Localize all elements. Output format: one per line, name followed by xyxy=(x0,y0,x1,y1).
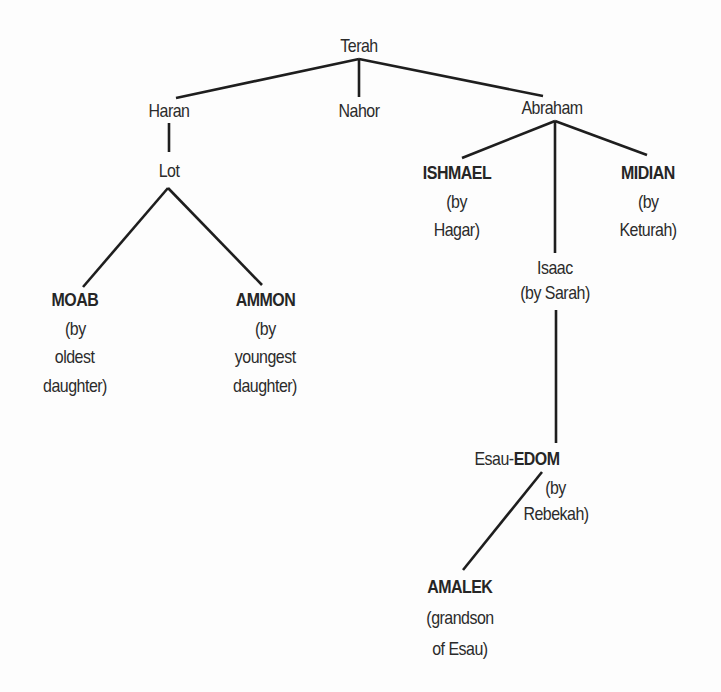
node-note: (by xyxy=(447,188,468,217)
node-moab: MOAB (by oldest daughter) xyxy=(37,286,113,400)
node-amalek: AMALEK (grandson of Esau) xyxy=(420,573,500,664)
node-note: oldest xyxy=(55,343,95,372)
node-ishmael: ISHMAEL (by Hagar) xyxy=(416,159,497,245)
node-name: MIDIAN xyxy=(621,159,675,188)
node-midian: MIDIAN (by Keturah) xyxy=(614,159,682,245)
family-tree-diagram: Terah Haran Nahor Abraham Lot MOAB (by o… xyxy=(0,0,721,692)
node-prefix: Esau- xyxy=(474,448,513,469)
node-abraham: Abraham xyxy=(516,97,589,119)
node-name: AMALEK xyxy=(427,573,492,602)
node-note: (grandson xyxy=(426,602,493,633)
node-name: Isaac xyxy=(537,255,573,280)
node-terah: Terah xyxy=(337,35,382,57)
node-name: EDOM xyxy=(514,448,560,469)
node-name: MOAB xyxy=(52,286,99,315)
node-esau-edom-note: (by Rebekah) xyxy=(517,475,595,527)
edge-abraham-midian xyxy=(555,121,647,155)
node-name: AMMON xyxy=(235,286,295,315)
edge-lot-ammon xyxy=(168,188,262,285)
node-note: (by Sarah) xyxy=(520,280,589,305)
node-note: (by xyxy=(546,475,567,501)
node-name: Lot xyxy=(159,160,180,182)
node-note: daughter) xyxy=(43,372,107,401)
node-lot: Lot xyxy=(157,160,182,182)
node-esau-edom: Esau-EDOM xyxy=(466,448,567,470)
node-note: Rebekah) xyxy=(523,501,588,527)
node-ammon: AMMON (by youngest daughter) xyxy=(227,286,303,400)
node-note: (by xyxy=(255,315,276,344)
node-note: Hagar) xyxy=(434,216,480,245)
node-note: daughter) xyxy=(233,372,297,401)
node-name: ISHMAEL xyxy=(423,159,491,188)
node-name: Nahor xyxy=(339,100,380,122)
node-haran: Haran xyxy=(145,100,194,122)
edge-terah-haran xyxy=(176,59,359,98)
node-note: (by xyxy=(638,188,659,217)
node-name: Haran xyxy=(149,100,190,122)
node-note: youngest xyxy=(235,343,296,372)
edge-abraham-ishmael xyxy=(462,121,555,158)
node-nahor: Nahor xyxy=(335,100,384,122)
node-isaac: Isaac (by Sarah) xyxy=(514,255,597,305)
node-note: of Esau) xyxy=(432,633,487,664)
node-note: (by xyxy=(65,315,86,344)
node-note: Keturah) xyxy=(619,216,676,245)
edge-lot-moab xyxy=(83,188,168,287)
node-name: Terah xyxy=(340,35,377,57)
node-name: Abraham xyxy=(521,97,582,119)
edge-terah-abraham xyxy=(359,59,543,96)
